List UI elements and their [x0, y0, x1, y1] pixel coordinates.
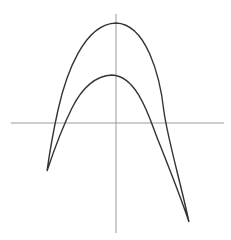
diagram-canvas	[0, 0, 231, 240]
